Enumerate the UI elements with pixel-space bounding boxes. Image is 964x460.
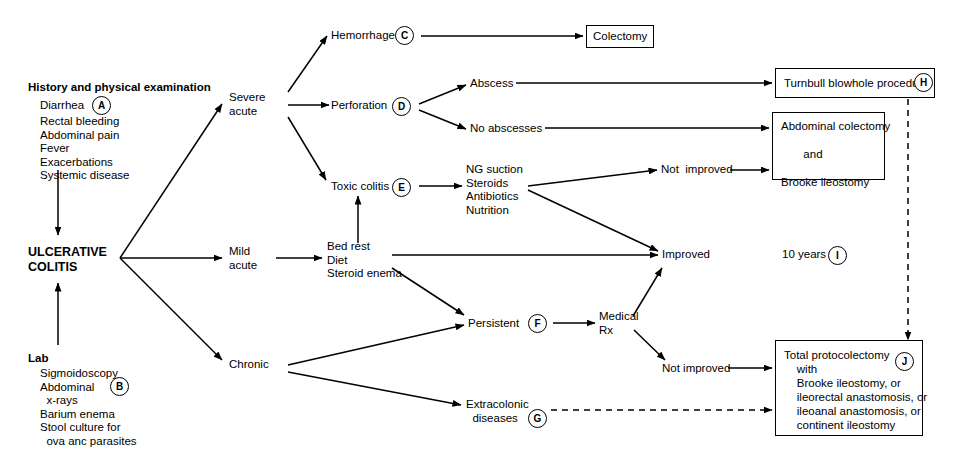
diagnosis-node: ULCERATIVE COLITIS [28, 245, 107, 275]
marker-d-circle: D [392, 97, 411, 116]
marker-e-circle: E [392, 178, 411, 197]
edge-diagnosis-to-severe [120, 104, 222, 258]
edge-diagnosis-to-chronic [120, 258, 222, 360]
marker-f-circle: F [528, 314, 547, 333]
edge-chronic-to-extracolonic [288, 372, 461, 405]
node-no-abscesses: No abscesses [470, 122, 542, 136]
outcome-improved: Improved [662, 248, 710, 262]
edge-medical-to-improved [633, 268, 662, 316]
node-medical-rx: Medical Rx [599, 310, 639, 337]
marker-j-circle: J [895, 352, 914, 371]
edge-treatment-to-improved [528, 190, 658, 251]
node-toxic-colitis: Toxic colitis [331, 180, 389, 194]
edge-severe-to-toxic [288, 117, 326, 180]
marker-h-circle: H [914, 73, 933, 92]
marker-a-circle: A [92, 96, 111, 115]
edge-chronic-to-persistent [288, 325, 464, 365]
severity-mild: Mild acute [229, 245, 257, 272]
outcome-ten-years: 10 years [782, 248, 826, 262]
node-extracolonic-diseases: Extracolonic diseases [466, 398, 529, 425]
severity-severe: Severe acute [229, 91, 265, 118]
severity-chronic: Chronic [229, 358, 269, 372]
edge-perforation-to-abscess [419, 85, 466, 104]
marker-b-circle: B [110, 377, 129, 396]
history-first-item: Diarrhea [40, 99, 84, 113]
edge-medical-to-not-improved [634, 330, 665, 360]
outcome-not-improved-medical: Not improved [662, 362, 730, 376]
edge-treatment-to-not-improved [528, 170, 657, 186]
node-abscess: Abscess [470, 77, 513, 91]
flowchart-canvas: History and physical examination Diarrhe… [0, 0, 964, 460]
box-turnbull-procedure: Turnbull blowhole procedure [775, 68, 935, 98]
toxic-treatment-list: NG suction Steroids Antibiotics Nutritio… [466, 163, 523, 217]
mild-treatment-list: Bed rest Diet Steroid enema [327, 240, 402, 281]
box-abdominal-colectomy: Abdominal colectomy and Brooke ileostomy [772, 112, 885, 180]
edge-perforation-to-no-abscesses [419, 110, 466, 129]
marker-i-circle: I [828, 246, 847, 265]
edge-bedrest-to-persistent [392, 268, 464, 315]
box-colectomy: Colectomy [586, 25, 654, 48]
node-hemorrhage: Hemorrhage [331, 29, 395, 43]
marker-g-circle: G [528, 409, 547, 428]
outcome-not-improved-toxic: Not improved [661, 163, 733, 177]
history-header: History and physical examination [28, 81, 211, 95]
marker-c-circle: C [395, 26, 414, 45]
node-perforation: Perforation [331, 99, 387, 113]
history-items: Rectal bleeding Abdominal pain Fever Exa… [40, 115, 129, 183]
node-persistent: Persistent [468, 317, 519, 331]
edge-severe-to-hemorrhage [288, 36, 327, 92]
lab-header: Lab [28, 352, 48, 366]
